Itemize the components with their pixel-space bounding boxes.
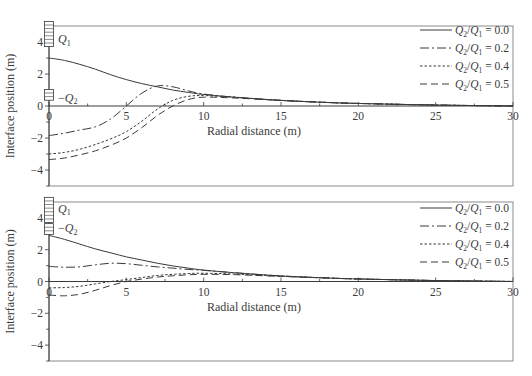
x-tick-label: 10 <box>198 110 210 122</box>
x-tick-label: 15 <box>275 286 287 298</box>
extraction-well-screen-icon <box>45 224 54 235</box>
y-axis-label: Interface position (m) <box>3 229 17 334</box>
q2-label: −Q2 <box>58 221 77 237</box>
y-tick-label: 4 <box>37 212 43 224</box>
series-line-solid <box>49 235 513 281</box>
y-tick-label: 0 <box>37 276 43 288</box>
injection-well-screen-icon <box>45 21 54 46</box>
y-tick-label: −2 <box>31 132 43 144</box>
x-tick-label: 30 <box>507 286 519 298</box>
x-tick-label: 5 <box>123 286 129 298</box>
y-tick-label: 4 <box>37 36 43 48</box>
q2-label: −Q2 <box>58 91 77 107</box>
chart-canvas: 051015202530−4−2024Radial distance (m)In… <box>0 0 532 376</box>
figure: 051015202530−4−2024Radial distance (m)In… <box>0 0 532 376</box>
x-tick-label: 20 <box>353 286 365 298</box>
x-axis-label: Radial distance (m) <box>207 124 301 138</box>
legend-item-label: Q2​/Q1​ = 0.2 <box>455 42 509 57</box>
x-axis-label: Radial distance (m) <box>207 300 301 314</box>
x-tick-label: 30 <box>507 110 519 122</box>
y-tick-label: 2 <box>37 68 43 80</box>
y-tick-label: 0 <box>37 100 43 112</box>
legend-item-label: Q2​/Q1​ = 0.4 <box>455 238 509 253</box>
y-axis-label: Interface position (m) <box>3 54 17 159</box>
legend-item-label: Q2​/Q1​ = 0.2 <box>455 220 509 235</box>
legend-item-label: Q2​/Q1​ = 0.5 <box>455 256 509 271</box>
series-line-solid <box>49 58 513 106</box>
x-tick-label: 15 <box>275 110 287 122</box>
y-tick-label: −4 <box>31 164 43 176</box>
x-tick-label: 25 <box>430 286 442 298</box>
legend-item-label: Q2​/Q1​ = 0.4 <box>455 60 509 75</box>
legend: Q2​/Q1​ = 0.0Q2​/Q1​ = 0.2Q2​/Q1​ = 0.4Q… <box>420 24 509 93</box>
bottom-panel: 051015202530−4−2024Radial distance (m)In… <box>3 197 519 361</box>
x-tick-label: 0 <box>46 110 52 122</box>
q1-label: Q1 <box>58 202 71 218</box>
x-tick-label: 20 <box>353 110 365 122</box>
y-tick-label: −2 <box>31 307 43 319</box>
x-tick-label: 5 <box>123 110 129 122</box>
y-tick-label: −4 <box>31 339 43 351</box>
legend-item-label: Q2​/Q1​ = 0.0 <box>455 202 509 217</box>
legend: Q2​/Q1​ = 0.0Q2​/Q1​ = 0.2Q2​/Q1​ = 0.4Q… <box>420 202 509 271</box>
legend-item-label: Q2​/Q1​ = 0.5 <box>455 78 509 93</box>
x-tick-label: 25 <box>430 110 442 122</box>
x-tick-label: 0 <box>46 286 52 298</box>
injection-well-screen-icon <box>45 197 54 222</box>
legend-item-label: Q2​/Q1​ = 0.0 <box>455 24 509 39</box>
y-tick-label: 2 <box>37 244 43 256</box>
top-panel: 051015202530−4−2024Radial distance (m)In… <box>3 21 519 186</box>
q1-label: Q1 <box>58 32 71 48</box>
extraction-well-screen-icon <box>45 89 54 100</box>
x-tick-label: 10 <box>198 286 210 298</box>
